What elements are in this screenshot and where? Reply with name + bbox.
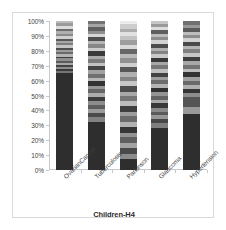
- bar-segment: [183, 114, 200, 170]
- y-tick-label: 100%: [28, 18, 44, 25]
- y-tick-mark: [46, 110, 49, 111]
- plot-area: 0%10%20%30%40%50%60%70%80%90%100%: [49, 21, 207, 170]
- x-tick-mark: [144, 170, 145, 173]
- chart-frame: 0%10%20%30%40%50%60%70%80%90%100% Ovaria…: [12, 12, 214, 218]
- stacked-bar[interactable]: [56, 21, 73, 170]
- x-tick-mark: [112, 170, 113, 173]
- y-tick-mark: [46, 21, 49, 22]
- y-tick-label: 70%: [31, 62, 44, 69]
- stacked-bar[interactable]: [183, 21, 200, 170]
- y-tick-mark: [46, 125, 49, 126]
- y-tick-mark: [46, 170, 49, 171]
- y-tick-label: 30%: [31, 122, 44, 129]
- y-tick-mark: [46, 96, 49, 97]
- stacked-bar[interactable]: [120, 21, 137, 170]
- y-tick-mark: [46, 155, 49, 156]
- y-tick-label: 20%: [31, 137, 44, 144]
- y-tick-label: 90%: [31, 32, 44, 39]
- y-tick-mark: [46, 81, 49, 82]
- y-tick-mark: [46, 66, 49, 67]
- x-tick-mark: [81, 170, 82, 173]
- y-tick-mark: [46, 140, 49, 141]
- y-tick-label: 60%: [31, 77, 44, 84]
- y-axis-line: [49, 21, 50, 170]
- y-tick-mark: [46, 36, 49, 37]
- x-tick-mark: [175, 170, 176, 173]
- bar-segment: [183, 97, 200, 107]
- bar-segment: [183, 107, 200, 114]
- stacked-bar[interactable]: [151, 21, 168, 170]
- x-axis-title: Children-H4: [13, 210, 215, 219]
- y-tick-mark: [46, 51, 49, 52]
- bar-segment: [56, 73, 73, 170]
- x-tick-mark: [207, 170, 208, 173]
- y-tick-label: 10%: [31, 152, 44, 159]
- y-tick-label: 0%: [35, 167, 44, 174]
- y-tick-label: 80%: [31, 47, 44, 54]
- y-tick-label: 40%: [31, 107, 44, 114]
- bar-segment: [151, 128, 168, 170]
- y-tick-label: 50%: [31, 92, 44, 99]
